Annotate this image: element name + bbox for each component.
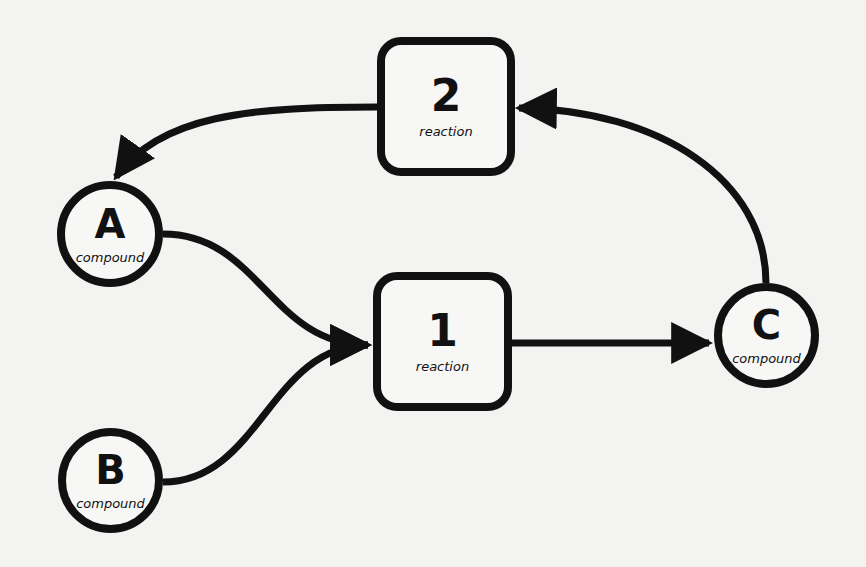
reaction-1-type: reaction bbox=[416, 359, 469, 374]
reaction-2-type: reaction bbox=[419, 124, 472, 139]
edge-a-to-1 bbox=[163, 234, 368, 345]
node-c-label: C bbox=[752, 305, 781, 345]
compound-node-c[interactable]: C compound bbox=[714, 283, 819, 388]
reaction-node-1[interactable]: 1 reaction bbox=[373, 272, 512, 411]
reaction-node-2[interactable]: 2 reaction bbox=[377, 37, 515, 176]
edge-c-to-2 bbox=[519, 108, 766, 283]
reaction-1-label: 1 bbox=[427, 309, 458, 353]
compound-node-b[interactable]: B compound bbox=[58, 428, 163, 533]
reaction-2-label: 2 bbox=[431, 74, 462, 118]
edge-2-to-a bbox=[116, 107, 377, 177]
node-b-type: compound bbox=[76, 496, 145, 511]
node-a-label: A bbox=[95, 204, 126, 244]
compound-node-a[interactable]: A compound bbox=[57, 181, 163, 287]
node-b-label: B bbox=[95, 450, 126, 490]
edge-b-to-1 bbox=[163, 345, 368, 482]
node-c-type: compound bbox=[732, 351, 801, 366]
node-a-type: compound bbox=[76, 250, 145, 265]
